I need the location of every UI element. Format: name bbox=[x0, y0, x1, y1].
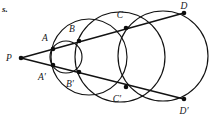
circle-large bbox=[75, 12, 165, 102]
geometry-figure: PAA′BB′CC′DD′s. bbox=[0, 0, 218, 118]
point-d-label: D bbox=[180, 1, 188, 11]
point-b-label: B bbox=[69, 24, 75, 34]
point-c-prime-label: C′ bbox=[113, 94, 122, 104]
point-d-prime-dot bbox=[182, 97, 187, 102]
point-d-prime-label: D′ bbox=[179, 106, 190, 116]
circle-xlarge bbox=[118, 11, 208, 101]
point-a-prime-dot bbox=[51, 63, 56, 68]
point-c-prime-dot bbox=[124, 85, 129, 90]
point-c-label: C bbox=[117, 10, 124, 20]
point-a-dot bbox=[51, 47, 56, 52]
point-a-prime-label: A′ bbox=[37, 72, 47, 82]
point-b-prime-label: B′ bbox=[66, 79, 75, 89]
circle-medium bbox=[51, 19, 127, 95]
point-b-prime-dot bbox=[77, 70, 82, 75]
point-p-label: P bbox=[5, 53, 12, 63]
point-p-dot bbox=[19, 56, 24, 61]
point-c-dot bbox=[124, 26, 129, 31]
point-a-label: A bbox=[41, 33, 48, 43]
point-d-dot bbox=[182, 11, 187, 16]
page-text-fragment: s. bbox=[1, 4, 8, 14]
point-b-dot bbox=[77, 39, 82, 44]
figure-canvas: PAA′BB′CC′DD′s. bbox=[0, 0, 218, 118]
